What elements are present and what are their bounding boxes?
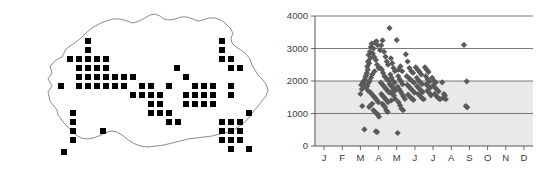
x-axis-ticks-group: JFMAMJJASOND xyxy=(322,146,528,163)
record-square xyxy=(201,83,207,89)
record-square xyxy=(166,110,172,116)
record-square xyxy=(121,74,127,80)
record-square xyxy=(103,56,109,62)
record-square xyxy=(157,101,163,107)
y-tick-label: 0 xyxy=(303,140,308,151)
x-tick-label: F xyxy=(339,152,345,163)
record-square xyxy=(174,65,180,71)
record-square xyxy=(148,83,154,89)
record-square xyxy=(76,56,82,62)
record-square xyxy=(237,128,243,134)
record-square xyxy=(192,83,198,89)
record-square xyxy=(76,74,82,80)
x-tick-label: O xyxy=(484,152,491,163)
record-square xyxy=(183,101,189,107)
record-square xyxy=(219,128,225,134)
x-tick-label: S xyxy=(466,152,472,163)
record-square xyxy=(237,65,243,71)
record-square xyxy=(94,74,100,80)
record-square xyxy=(121,83,127,89)
y-tick-label: 3000 xyxy=(287,43,308,54)
record-square xyxy=(85,83,91,89)
record-square xyxy=(67,56,73,62)
record-square xyxy=(103,83,109,89)
record-square xyxy=(175,119,181,125)
y-axis-ticks-group: 01000200030004000 xyxy=(287,10,315,151)
record-square xyxy=(246,110,252,116)
y-tick-label: 2000 xyxy=(287,75,308,86)
record-square xyxy=(70,110,76,116)
record-square xyxy=(219,38,225,44)
record-square xyxy=(192,101,198,107)
record-square xyxy=(246,146,252,152)
record-square xyxy=(228,119,234,125)
record-square xyxy=(166,119,172,125)
record-square xyxy=(192,92,198,98)
record-square xyxy=(183,74,189,80)
country-outline-bhutan xyxy=(48,14,268,147)
record-square xyxy=(228,146,234,152)
record-square xyxy=(228,92,234,98)
record-square xyxy=(148,92,154,98)
record-square xyxy=(166,83,172,89)
y-tick-label: 4000 xyxy=(287,10,308,21)
record-square xyxy=(85,65,91,71)
x-tick-label: A xyxy=(375,152,382,163)
record-square xyxy=(130,74,136,80)
x-tick-label: M xyxy=(393,152,401,163)
record-square xyxy=(228,65,234,71)
record-square xyxy=(139,92,145,98)
altitude-scatter-svg: 01000200030004000 JFMAMJJASOND xyxy=(280,0,549,171)
record-square xyxy=(148,110,154,116)
record-square xyxy=(61,149,67,155)
x-tick-label: N xyxy=(502,152,509,163)
record-square xyxy=(157,110,163,116)
record-square xyxy=(58,83,64,89)
record-square xyxy=(130,92,136,98)
distribution-map-panel xyxy=(0,0,280,171)
record-square xyxy=(183,92,189,98)
distribution-map-svg xyxy=(0,0,280,171)
record-square xyxy=(201,92,207,98)
record-square xyxy=(219,47,225,53)
record-square xyxy=(210,101,216,107)
x-tick-label: J xyxy=(413,152,418,163)
record-square xyxy=(228,83,234,89)
figure-container: 01000200030004000 JFMAMJJASOND xyxy=(0,0,549,171)
record-square xyxy=(210,92,216,98)
record-square xyxy=(228,137,234,143)
record-square xyxy=(94,83,100,89)
record-square xyxy=(112,83,118,89)
x-tick-label: J xyxy=(322,152,327,163)
record-square xyxy=(70,119,76,125)
record-square xyxy=(76,83,82,89)
x-tick-label: M xyxy=(356,152,364,163)
record-square xyxy=(100,128,106,134)
record-square xyxy=(103,65,109,71)
record-square xyxy=(210,83,216,89)
x-tick-label: J xyxy=(431,152,436,163)
record-square xyxy=(76,65,82,71)
record-square xyxy=(228,56,234,62)
record-square xyxy=(228,128,234,134)
record-square xyxy=(94,65,100,71)
record-square xyxy=(139,83,145,89)
record-square xyxy=(70,137,76,143)
record-square xyxy=(157,92,163,98)
record-square xyxy=(219,56,225,62)
record-square xyxy=(85,56,91,62)
record-square xyxy=(219,119,225,125)
record-square xyxy=(237,119,243,125)
record-square xyxy=(85,47,91,53)
record-square xyxy=(85,38,91,44)
altitude-scatter-panel: 01000200030004000 JFMAMJJASOND xyxy=(280,0,549,171)
record-square xyxy=(112,74,118,80)
y-tick-label: 1000 xyxy=(287,108,308,119)
record-square xyxy=(94,56,100,62)
record-square xyxy=(70,128,76,134)
record-square xyxy=(148,101,154,107)
record-square xyxy=(103,74,109,80)
x-tick-label: D xyxy=(520,152,527,163)
x-tick-label: A xyxy=(448,152,455,163)
record-square xyxy=(201,101,207,107)
